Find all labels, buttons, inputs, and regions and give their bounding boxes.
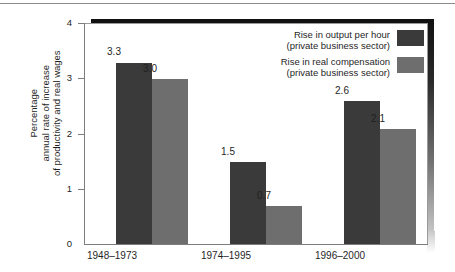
y-tick-mark-4 bbox=[78, 23, 85, 24]
bar-1974-1995-real-compensation[interactable] bbox=[266, 206, 302, 245]
bar-1996-2000-real-compensation[interactable] bbox=[380, 129, 416, 245]
legend-label-real-compensation-line-1: Rise in real compensation bbox=[281, 56, 390, 67]
legend-swatch-real-compensation bbox=[397, 57, 424, 73]
y-axis-title-line-1: Percentage bbox=[28, 28, 40, 198]
bar-value-1996-2000-output-per-hour: 2.6 bbox=[322, 86, 362, 96]
category-label-1974-1995: 1974–1995 bbox=[181, 250, 271, 261]
y-tick-mark-3 bbox=[78, 78, 85, 79]
y-tick-mark-1 bbox=[78, 189, 85, 190]
legend-entry-output-per-hour: Rise in output per hour (private busines… bbox=[228, 29, 424, 51]
y-tick-mark-2 bbox=[78, 134, 85, 135]
y-axis-title: Percentage annual rate of increase of pr… bbox=[28, 28, 63, 198]
legend-swatch-output-per-hour bbox=[397, 30, 424, 46]
chart-legend: Rise in output per hour (private busines… bbox=[228, 29, 424, 83]
bar-value-1948-1973-output-per-hour: 3.3 bbox=[94, 47, 134, 57]
legend-label-real-compensation: Rise in real compensation (private busin… bbox=[281, 56, 397, 78]
bar-value-1974-1995-real-compensation: 0.7 bbox=[244, 191, 284, 201]
x-axis-line bbox=[84, 244, 428, 245]
y-tick-label-4: 4 bbox=[50, 18, 72, 28]
legend-label-output-per-hour-line-2: (private business sector) bbox=[287, 40, 390, 51]
legend-label-real-compensation-line-2: (private business sector) bbox=[281, 67, 390, 78]
plot-frame-shadow-fade bbox=[427, 231, 435, 253]
y-tick-label-4-wrap: 4 bbox=[50, 18, 72, 28]
y-axis-title-line-2: annual rate of increase bbox=[39, 28, 51, 198]
y-tick-label-0: 0 bbox=[50, 239, 72, 249]
bar-1948-1973-real-compensation[interactable] bbox=[152, 79, 188, 244]
bar-1948-1973-output-per-hour[interactable] bbox=[116, 63, 152, 245]
category-label-1948-1973: 1948–1973 bbox=[67, 250, 157, 261]
bar-chart-figure: 4 3 2 1 0 Percentage annual rate of incr… bbox=[0, 0, 455, 272]
legend-entry-real-compensation: Rise in real compensation (private busin… bbox=[228, 56, 424, 78]
legend-label-output-per-hour: Rise in output per hour (private busines… bbox=[287, 29, 397, 51]
bar-value-1996-2000-real-compensation: 2.1 bbox=[358, 114, 398, 124]
legend-label-output-per-hour-line-1: Rise in output per hour bbox=[287, 29, 390, 40]
plot-frame-right-band bbox=[427, 19, 434, 245]
y-tick-label-0-wrap: 0 bbox=[50, 239, 72, 249]
bar-value-1948-1973-real-compensation: 3.0 bbox=[130, 64, 170, 74]
bar-value-1974-1995-output-per-hour: 1.5 bbox=[208, 147, 248, 157]
bar-1974-1995-output-per-hour[interactable] bbox=[230, 162, 266, 245]
category-label-1996-2000: 1996–2000 bbox=[295, 250, 385, 261]
y-axis-title-line-3: of productivity and real wages bbox=[51, 28, 63, 198]
